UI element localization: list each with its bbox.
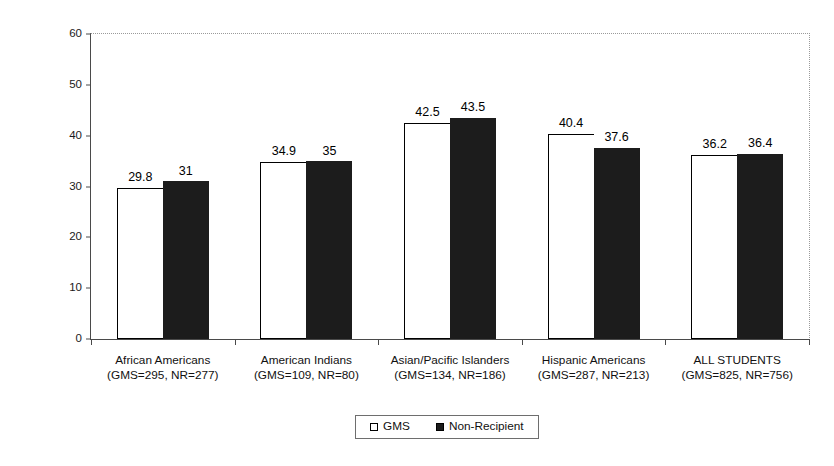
bar-non-recipient[interactable]: 43.5 bbox=[450, 118, 496, 339]
bar-value-label: 29.8 bbox=[128, 171, 152, 184]
bar-value-label: 37.6 bbox=[604, 131, 628, 144]
bar-non-recipient[interactable]: 35 bbox=[306, 161, 352, 339]
bar-pair: 36.236.4 bbox=[665, 34, 809, 339]
bar-value-label: 36.4 bbox=[748, 137, 772, 150]
bar-value-label: 34.9 bbox=[272, 145, 296, 158]
legend-entry[interactable]: Non-Recipient bbox=[436, 421, 524, 433]
category-sample-sizes: (GMS=825, NR=756) bbox=[665, 368, 809, 383]
legend-label: GMS bbox=[383, 421, 410, 433]
bar-pair: 42.543.5 bbox=[378, 34, 522, 339]
bar-value-label: 43.5 bbox=[461, 101, 485, 114]
bar-non-recipient[interactable]: 37.6 bbox=[594, 148, 640, 339]
bar-group: 40.437.6Hispanic Americans(GMS=287, NR=2… bbox=[522, 34, 666, 339]
category-name: Hispanic Americans bbox=[542, 353, 646, 367]
bar-value-label: 42.5 bbox=[415, 106, 439, 119]
x-axis-category-label: Asian/Pacific Islanders(GMS=134, NR=186) bbox=[378, 353, 522, 383]
bar-value-label: 31 bbox=[179, 165, 193, 178]
category-name: Asian/Pacific Islanders bbox=[391, 353, 510, 367]
category-sample-sizes: (GMS=134, NR=186) bbox=[378, 368, 522, 383]
bar-pair: 40.437.6 bbox=[522, 34, 666, 339]
plot-area: 010203040506029.831African Americans(GMS… bbox=[90, 33, 810, 340]
category-sample-sizes: (GMS=295, NR=277) bbox=[91, 368, 235, 383]
x-axis-tick-mark bbox=[522, 339, 523, 345]
x-axis-tick-mark bbox=[665, 339, 666, 345]
chart-legend: GMSNon-Recipient bbox=[355, 415, 539, 439]
legend-label: Non-Recipient bbox=[449, 421, 524, 433]
category-name: ALL STUDENTS bbox=[693, 353, 780, 367]
category-name: American Indians bbox=[261, 353, 352, 367]
x-axis-tick-mark bbox=[91, 339, 92, 345]
category-sample-sizes: (GMS=109, NR=80) bbox=[235, 368, 379, 383]
legend-entry[interactable]: GMS bbox=[370, 421, 410, 433]
bar-group: 36.236.4ALL STUDENTS(GMS=825, NR=756) bbox=[665, 34, 809, 339]
x-axis-tick-mark bbox=[235, 339, 236, 345]
bar-gms[interactable]: 34.9 bbox=[260, 162, 306, 339]
bar-gms[interactable]: 29.8 bbox=[117, 188, 163, 339]
bar-non-recipient[interactable]: 31 bbox=[163, 181, 209, 339]
bar-gms[interactable]: 36.2 bbox=[691, 155, 737, 339]
bar-value-label: 35 bbox=[322, 145, 336, 158]
bar-non-recipient[interactable]: 36.4 bbox=[737, 154, 783, 339]
x-axis-category-label: Hispanic Americans(GMS=287, NR=213) bbox=[522, 353, 666, 383]
x-axis-category-label: African Americans(GMS=295, NR=277) bbox=[91, 353, 235, 383]
bar-gms[interactable]: 42.5 bbox=[404, 123, 450, 339]
bar-group: 42.543.5Asian/Pacific Islanders(GMS=134,… bbox=[378, 34, 522, 339]
bar-group: 29.831African Americans(GMS=295, NR=277) bbox=[91, 34, 235, 339]
bar-value-label: 40.4 bbox=[559, 117, 583, 130]
x-axis-tick-mark bbox=[809, 339, 810, 345]
bar-pair: 29.831 bbox=[91, 34, 235, 339]
x-axis-tick-mark bbox=[378, 339, 379, 345]
category-sample-sizes: (GMS=287, NR=213) bbox=[522, 368, 666, 383]
x-axis-category-label: ALL STUDENTS(GMS=825, NR=756) bbox=[665, 353, 809, 383]
open-square-icon bbox=[370, 423, 378, 431]
x-axis-category-label: American Indians(GMS=109, NR=80) bbox=[235, 353, 379, 383]
bar-group: 34.935American Indians(GMS=109, NR=80) bbox=[235, 34, 379, 339]
bar-chart-figure: 010203040506029.831African Americans(GMS… bbox=[0, 0, 834, 466]
bar-pair: 34.935 bbox=[235, 34, 379, 339]
bar-gms[interactable]: 40.4 bbox=[548, 134, 594, 339]
category-name: African Americans bbox=[115, 353, 210, 367]
filled-square-icon bbox=[436, 423, 444, 431]
bar-value-label: 36.2 bbox=[703, 138, 727, 151]
